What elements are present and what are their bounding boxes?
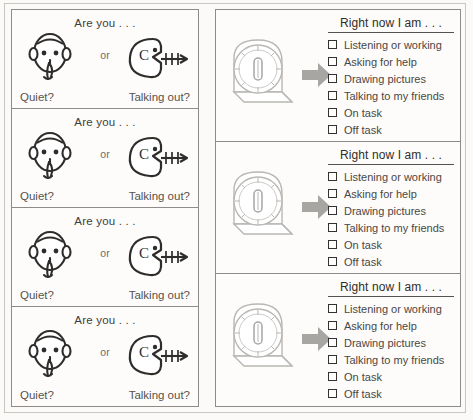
checklist: Listening or working Asking for help Dra… [328,300,454,402]
checklist-item[interactable]: On task [328,104,454,121]
talking-out-face-icon: C [120,229,192,287]
checklist-item-label: Listening or working [344,171,442,183]
card-option-labels: Quiet? Talking out? [20,190,190,202]
checklist-item-label: Talking to my friends [344,354,444,366]
kitchen-timer-icon [224,32,298,116]
checklist-item[interactable]: Talking to my friends [328,219,454,236]
checklist-item-label: Asking for help [344,320,417,332]
checklist: Listening or working Asking for help Dra… [328,36,454,138]
checkbox-icon[interactable] [328,338,337,347]
checklist-item-label: On task [344,371,382,383]
talking-out-face-icon: C [120,130,192,188]
checklist-item-label: Talking to my friends [344,222,444,234]
checklist-item[interactable]: Asking for help [328,185,454,202]
checklist-item-label: On task [344,107,382,119]
checkbox-icon[interactable] [328,389,337,398]
checklist-item[interactable]: On task [328,236,454,253]
svg-text:C: C [139,47,149,63]
checklist-item[interactable]: Asking for help [328,317,454,334]
checklist-content: Right now I am . . . Listening or workin… [328,148,454,270]
card-body: or C [12,29,198,85]
checklist-content: Right now I am . . . Listening or workin… [328,280,454,402]
right-now-i-am-block[interactable]: Right now I am . . . Listening or workin… [216,10,460,142]
checklist-item[interactable]: Drawing pictures [328,202,454,219]
checklist-item[interactable]: Drawing pictures [328,334,454,351]
option-label-quiet[interactable]: Quiet? [20,289,54,301]
checklist-item[interactable]: Off task [328,385,454,402]
card-body: or C [12,326,198,382]
checkbox-icon[interactable] [328,223,337,232]
svg-text:C: C [139,344,149,360]
checkbox-icon[interactable] [328,91,337,100]
checklist-item[interactable]: Listening or working [328,36,454,53]
checklist-item-label: Off task [344,388,382,400]
checklist-item-label: Talking to my friends [344,90,444,102]
checklist-item-label: Drawing pictures [344,337,426,349]
card-option-labels: Quiet? Talking out? [20,289,190,301]
checklist-item[interactable]: Listening or working [328,168,454,185]
checklist-item-label: Asking for help [344,56,417,68]
checkbox-icon[interactable] [328,206,337,215]
checklist-item-label: Drawing pictures [344,205,426,217]
option-label-talking-out[interactable]: Talking out? [129,91,190,103]
checklist-item-label: Listening or working [344,303,442,315]
are-you-card[interactable]: Are you . . . o [12,10,198,109]
checklist-item[interactable]: Talking to my friends [328,87,454,104]
checklist-title: Right now I am . . . [328,280,454,297]
checklist-item[interactable]: Off task [328,253,454,270]
checkbox-icon[interactable] [328,108,337,117]
checklist-title: Right now I am . . . [328,148,454,165]
checkbox-icon[interactable] [328,355,337,364]
checklist-item-label: On task [344,239,382,251]
checkbox-icon[interactable] [328,125,337,134]
card-option-labels: Quiet? Talking out? [20,389,190,401]
checkbox-icon[interactable] [328,304,337,313]
svg-text:C: C [139,146,149,162]
checklist-item[interactable]: Asking for help [328,53,454,70]
card-title: Are you . . . [12,116,198,128]
card-title: Are you . . . [12,215,198,227]
checklist-item-label: Off task [344,124,382,136]
left-column-are-you-cards: Are you . . . o [11,9,199,407]
are-you-card[interactable]: Are you . . . o [12,109,198,208]
option-label-quiet[interactable]: Quiet? [20,91,54,103]
card-body: or C [12,128,198,184]
checkbox-icon[interactable] [328,240,337,249]
checkbox-icon[interactable] [328,172,337,181]
checklist-title: Right now I am . . . [328,16,454,33]
right-now-i-am-block[interactable]: Right now I am . . . Listening or workin… [216,142,460,274]
option-label-quiet[interactable]: Quiet? [20,190,54,202]
checklist-item[interactable]: Drawing pictures [328,70,454,87]
option-label-quiet[interactable]: Quiet? [20,389,54,401]
card-title: Are you . . . [12,17,198,29]
svg-text:C: C [139,245,149,261]
card-body: or C [12,227,198,283]
checklist-content: Right now I am . . . Listening or workin… [328,16,454,138]
checkbox-icon[interactable] [328,257,337,266]
are-you-card[interactable]: Are you . . . o [12,307,198,406]
option-label-talking-out[interactable]: Talking out? [129,289,190,301]
checklist-item[interactable]: Listening or working [328,300,454,317]
talking-out-face-icon: C [120,328,192,386]
checkbox-icon[interactable] [328,40,337,49]
checklist-item-label: Listening or working [344,39,442,51]
option-label-talking-out[interactable]: Talking out? [129,190,190,202]
kitchen-timer-icon [224,164,298,248]
checkbox-icon[interactable] [328,321,337,330]
checklist-item-label: Asking for help [344,188,417,200]
right-column-checklist-blocks: Right now I am . . . Listening or workin… [215,9,461,407]
checkbox-icon[interactable] [328,189,337,198]
checklist-item[interactable]: Talking to my friends [328,351,454,368]
checklist-item-label: Off task [344,256,382,268]
option-label-talking-out[interactable]: Talking out? [129,389,190,401]
checklist: Listening or working Asking for help Dra… [328,168,454,270]
checkbox-icon[interactable] [328,74,337,83]
checkbox-icon[interactable] [328,372,337,381]
checkbox-icon[interactable] [328,57,337,66]
checklist-item[interactable]: Off task [328,121,454,138]
checklist-item[interactable]: On task [328,368,454,385]
kitchen-timer-icon [224,296,298,380]
are-you-card[interactable]: Are you . . . o [12,208,198,307]
checklist-item-label: Drawing pictures [344,73,426,85]
right-now-i-am-block[interactable]: Right now I am . . . Listening or workin… [216,274,460,406]
